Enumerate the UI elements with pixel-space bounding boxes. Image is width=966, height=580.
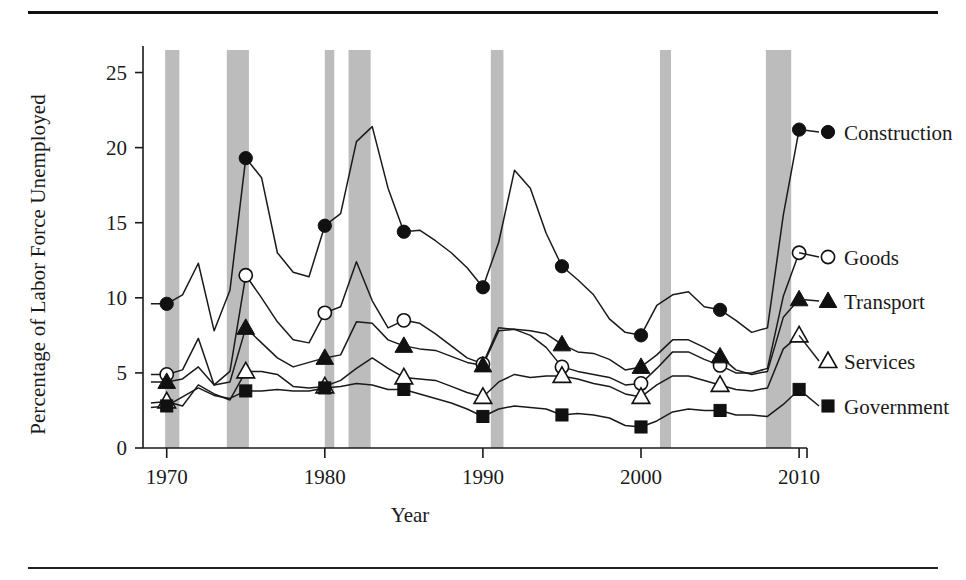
data-point-marker xyxy=(713,303,726,316)
bottom-rule xyxy=(28,567,938,569)
data-point-marker xyxy=(821,125,834,138)
data-point-marker xyxy=(398,383,410,395)
recession-band xyxy=(349,50,371,448)
data-point-marker xyxy=(555,260,568,273)
x-tick-labels-group: 19701980199020002010 xyxy=(146,465,820,489)
line-chart-svg: 0510152025 19701980199020002010 Construc… xyxy=(0,14,966,514)
data-point-marker xyxy=(397,225,410,238)
data-point-marker xyxy=(477,410,489,422)
legend-label-construction: Construction xyxy=(844,121,953,145)
data-point-marker xyxy=(160,297,173,310)
data-point-marker xyxy=(239,152,252,165)
x-tick-label: 2010 xyxy=(778,465,820,489)
data-point-marker xyxy=(819,352,837,367)
data-point-marker xyxy=(821,250,834,263)
data-point-marker xyxy=(822,400,834,412)
y-tick-label: 15 xyxy=(106,211,127,235)
data-point-marker xyxy=(819,292,837,307)
data-point-marker xyxy=(239,269,252,282)
x-tick-label: 2000 xyxy=(620,465,662,489)
data-point-marker xyxy=(790,290,808,305)
data-point-marker xyxy=(790,326,808,341)
data-point-marker xyxy=(556,409,568,421)
x-tick-label: 1980 xyxy=(304,465,346,489)
y-axis-label: Percentage of Labor Force Unemployed xyxy=(26,55,51,475)
data-point-marker xyxy=(632,358,650,373)
figure-page: Percentage of Labor Force Unemployed Yea… xyxy=(0,0,966,580)
y-tick-label: 20 xyxy=(106,136,127,160)
legend-group: ConstructionGoodsTransportServicesGovern… xyxy=(799,121,953,419)
data-point-marker xyxy=(395,337,413,352)
x-axis-label: Year xyxy=(0,503,820,528)
y-tick-label: 5 xyxy=(117,361,128,385)
legend-leader-line xyxy=(799,389,819,406)
recession-bands-group xyxy=(165,50,791,448)
legend-label-goods: Goods xyxy=(844,246,899,270)
legend-label-government: Government xyxy=(844,395,949,419)
x-tick-label: 1990 xyxy=(462,465,504,489)
data-point-marker xyxy=(395,368,413,383)
data-point-marker xyxy=(319,382,331,394)
recession-band xyxy=(660,50,671,448)
chart-figure: Percentage of Labor Force Unemployed Yea… xyxy=(0,14,966,566)
data-point-marker xyxy=(635,421,647,433)
legend-label-services: Services xyxy=(844,350,915,374)
data-point-marker xyxy=(476,281,489,294)
y-tick-labels-group: 0510152025 xyxy=(106,61,127,460)
data-point-marker xyxy=(161,400,173,412)
data-point-marker xyxy=(318,306,331,319)
y-tick-label: 10 xyxy=(106,286,127,310)
data-point-marker xyxy=(553,335,571,350)
data-point-marker xyxy=(714,404,726,416)
y-tick-label: 25 xyxy=(106,61,127,85)
y-tick-label: 0 xyxy=(117,436,128,460)
data-point-marker xyxy=(397,314,410,327)
legend-leader-line xyxy=(799,335,819,361)
legend-label-transport: Transport xyxy=(844,290,925,314)
data-point-marker xyxy=(240,385,252,397)
x-tick-label: 1970 xyxy=(146,465,188,489)
data-point-marker xyxy=(711,347,729,362)
data-point-marker xyxy=(318,219,331,232)
data-point-marker xyxy=(634,329,647,342)
